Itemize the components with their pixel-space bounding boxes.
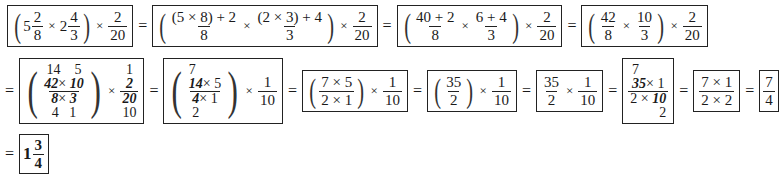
- left-paren: (: [172, 65, 182, 117]
- cancel-result: 4: [52, 105, 59, 120]
- right-paren: ): [83, 9, 90, 43]
- denominator: 10: [578, 91, 597, 109]
- whole-part: 2: [60, 18, 68, 35]
- numerator-product: 14× 5: [189, 77, 221, 91]
- fraction: 7 × 52 × 1: [319, 74, 354, 109]
- denominator-stack: 4× 12: [192, 92, 217, 120]
- equals-sign: =: [567, 17, 576, 35]
- numerator: 2: [541, 9, 553, 26]
- fraction: 34: [33, 137, 45, 172]
- fraction: 28: [32, 9, 44, 44]
- fraction: 6 + 43: [474, 9, 509, 44]
- cancelled-number: 4: [192, 91, 199, 106]
- fraction: 7 × 12 × 2: [699, 74, 734, 109]
- numerator: 1: [582, 74, 594, 91]
- fraction: 220: [683, 9, 702, 44]
- left-paren: (: [309, 74, 316, 108]
- denominator-product: 2 × 10: [630, 92, 666, 106]
- step-5-box: ( 14 5 42× 10 8× 3 4 1 ) × 12 2010: [19, 58, 144, 124]
- numerator: 42: [599, 9, 618, 26]
- numerator-stack: 12: [126, 63, 133, 91]
- denominator: 4× 12: [190, 91, 219, 120]
- fraction: 110: [383, 74, 402, 109]
- step-12-box: 74: [759, 70, 779, 112]
- fraction: 220: [108, 9, 127, 44]
- right-paren: ): [228, 65, 238, 117]
- fraction: 74: [763, 74, 775, 109]
- numerator-product: 42× 10: [44, 77, 83, 91]
- denominator-stack: 8× 3 4 1: [51, 92, 76, 120]
- fraction: (5 × 8) + 28: [170, 9, 238, 44]
- denominator: 4: [33, 154, 45, 172]
- whole-part: 1: [23, 144, 32, 164]
- times-sign: ×: [371, 83, 378, 99]
- left-paren: (: [14, 9, 21, 43]
- denominator: 20: [683, 26, 702, 44]
- times-sign: ×: [566, 83, 573, 99]
- cancel-result: 5: [75, 62, 82, 77]
- denominator: 2010: [120, 91, 138, 120]
- numerator: 10: [635, 9, 654, 26]
- denominator: 3: [485, 26, 497, 44]
- denominator: 3: [639, 26, 651, 44]
- numerator: 1: [387, 74, 399, 91]
- right-paren: ): [512, 9, 519, 43]
- numerator: 2: [112, 9, 124, 26]
- denominator: 4: [763, 91, 775, 109]
- denominator: 8: [602, 26, 614, 44]
- cancelled-number: 3: [70, 91, 77, 106]
- factor: 5: [214, 76, 221, 91]
- denominator-product: 4× 1: [192, 92, 217, 106]
- cancelled-fraction: 735× 1 2 × 102: [628, 63, 668, 120]
- numerator: 735× 1: [630, 63, 666, 91]
- step-7-box: ( 7 × 52 × 1 ) × 110: [302, 70, 408, 112]
- cancelled-number: 42: [44, 76, 58, 91]
- final-answer: 1 34: [23, 137, 45, 172]
- equals-sign: =: [608, 82, 617, 100]
- cancel-results: 14 5: [47, 63, 82, 77]
- times-sign: ×: [48, 18, 55, 34]
- denominator: 8: [429, 26, 441, 44]
- fraction: 40 + 28: [414, 9, 456, 44]
- factor: 1: [211, 91, 218, 106]
- numerator: 2: [687, 9, 699, 26]
- denominator-stack: 2 × 102: [630, 92, 666, 120]
- numerator: 7 × 5: [319, 74, 354, 91]
- numerator-stack: 14 5 42× 10: [44, 63, 83, 91]
- cancelled-number: 20: [122, 92, 136, 106]
- times-sign: ×: [461, 18, 468, 34]
- cancel-result: 14: [47, 62, 61, 77]
- step-2-box: ( (5 × 8) + 28 × (2 × 3) + 43 ) × 220: [152, 5, 377, 47]
- factor: 1: [657, 76, 664, 91]
- cancelled-fraction: 14 5 42× 10 8× 3 4 1: [42, 63, 85, 120]
- equals-sign: =: [413, 82, 422, 100]
- cancel-result: 10: [122, 106, 136, 120]
- left-paren: (: [434, 74, 441, 108]
- fraction: 110: [578, 74, 597, 109]
- fraction: 352: [444, 74, 463, 109]
- times-sign: ×: [670, 18, 677, 34]
- cancel-result: 7: [189, 63, 196, 77]
- step-8-box: ( 352 ) × 110: [427, 70, 517, 112]
- left-paren: (: [27, 65, 37, 117]
- denominator: 8× 3 4 1: [49, 91, 78, 120]
- denominator-stack: 2010: [122, 92, 136, 120]
- numerator: 40 + 2: [414, 9, 456, 26]
- cancel-result: 2: [659, 106, 666, 120]
- numerator: 12: [124, 63, 135, 91]
- denominator: 2: [448, 91, 460, 109]
- numerator: 3: [33, 137, 45, 154]
- denominator: 2 × 1: [319, 91, 354, 109]
- cancel-results: 4 1: [52, 106, 77, 120]
- cancel-result: 1: [126, 63, 133, 77]
- fraction: 220: [537, 9, 556, 44]
- cancelled-number: 8: [51, 91, 58, 106]
- denominator: 2: [546, 91, 558, 109]
- times-sign: ×: [243, 18, 250, 34]
- cancel-result: 1: [69, 105, 76, 120]
- fraction: 352: [542, 74, 561, 109]
- left-paren: (: [589, 9, 596, 43]
- step-6-box: ( 714× 5 4× 12 ) × 110: [163, 58, 282, 124]
- times-sign: ×: [96, 18, 103, 34]
- mixed-number-2: 2 43: [60, 9, 81, 44]
